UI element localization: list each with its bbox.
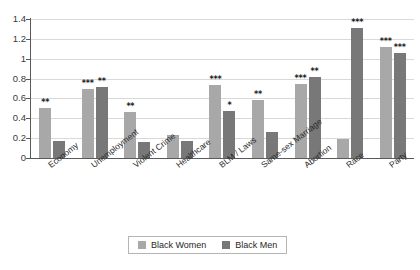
bar-black-men xyxy=(53,141,65,158)
y-axis-tick xyxy=(26,118,31,119)
bar-black-women xyxy=(295,84,307,158)
legend-swatch-men-icon xyxy=(222,241,230,249)
y-axis-tick-label: 0.4 xyxy=(0,114,26,124)
significance-stars: *** xyxy=(82,80,94,88)
bar-black-women xyxy=(82,89,94,159)
significance-stars: ** xyxy=(98,78,106,86)
bar-black-men xyxy=(223,111,235,158)
legend-label-black-men: Black Men xyxy=(235,240,277,250)
bar-group: *** xyxy=(329,19,372,158)
significance-stars: *** xyxy=(295,75,307,83)
bar-group: **** xyxy=(201,19,244,158)
y-axis-tick xyxy=(26,59,31,60)
bar-group xyxy=(159,19,202,158)
bar-group: ** xyxy=(244,19,287,158)
bar-black-women xyxy=(167,135,179,158)
y-axis-tick-label: 1 xyxy=(0,54,26,64)
y-axis-tick xyxy=(26,138,31,139)
y-axis-tick-label: 0.8 xyxy=(0,74,26,84)
bar-black-men xyxy=(138,142,150,158)
y-axis-tick-label: 0 xyxy=(0,153,26,163)
significance-stars: ** xyxy=(311,68,319,76)
x-axis-line xyxy=(30,158,414,159)
bars-layer: ***************************** xyxy=(31,19,414,158)
bar-group: ***** xyxy=(74,19,117,158)
significance-stars: *** xyxy=(380,38,392,46)
bar-group: ***** xyxy=(286,19,329,158)
significance-stars: *** xyxy=(210,76,222,84)
bar-black-women xyxy=(337,139,349,158)
y-axis-labels: 00.20.40.60.811.21.4 xyxy=(0,0,26,270)
bar-black-men xyxy=(309,77,321,158)
legend-label-black-women: Black Women xyxy=(151,240,206,250)
bar-black-men xyxy=(181,141,193,158)
significance-stars: *** xyxy=(394,44,406,52)
y-axis-tick-label: 0.6 xyxy=(0,94,26,104)
bar-black-men xyxy=(266,132,278,158)
bar-black-men xyxy=(394,53,406,158)
bar-black-women xyxy=(39,108,51,158)
significance-stars: ** xyxy=(126,103,134,111)
bar-black-women xyxy=(124,112,136,158)
bar-group: ** xyxy=(31,19,74,158)
y-axis-tick xyxy=(26,19,31,20)
y-axis-tick-label: 1.4 xyxy=(0,14,26,24)
significance-stars: ** xyxy=(254,91,262,99)
bar-black-women xyxy=(380,47,392,158)
bar-black-women xyxy=(252,100,264,158)
y-axis-tick-label: 1.2 xyxy=(0,34,26,44)
chart-legend: Black Women Black Men xyxy=(128,236,287,254)
bar-black-men xyxy=(96,87,108,158)
bar-black-men xyxy=(351,28,363,158)
y-axis-tick-label: 0.2 xyxy=(0,133,26,143)
bar-chart: 00.20.40.60.811.21.4 *******************… xyxy=(0,0,420,270)
legend-item-black-women[interactable]: Black Women xyxy=(138,240,206,250)
y-axis-tick xyxy=(26,39,31,40)
y-axis-tick xyxy=(26,98,31,99)
legend-item-black-men[interactable]: Black Men xyxy=(222,240,277,250)
y-axis-tick xyxy=(26,158,31,159)
significance-stars: ** xyxy=(41,99,49,107)
significance-stars: *** xyxy=(351,19,363,27)
plot-area: ***************************** xyxy=(31,19,414,158)
legend-swatch-women-icon xyxy=(138,241,146,249)
y-axis-tick xyxy=(26,79,31,80)
bar-group: ****** xyxy=(371,19,414,158)
bar-group: ** xyxy=(116,19,159,158)
bar-black-women xyxy=(209,85,221,158)
significance-stars: * xyxy=(227,102,231,110)
